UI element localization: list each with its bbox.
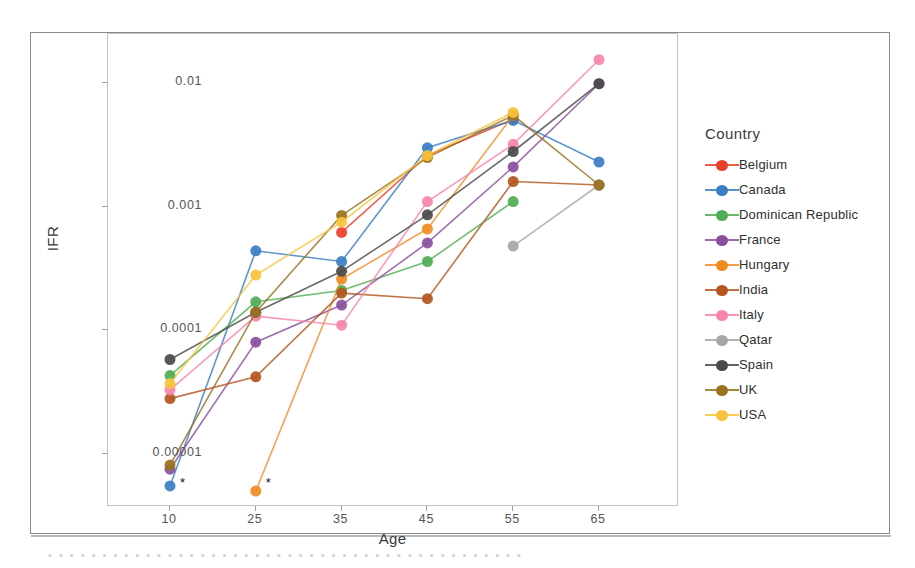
series-line-qatar xyxy=(513,185,599,246)
data-point-italy xyxy=(594,54,605,65)
data-point-canada xyxy=(336,256,347,267)
legend-label: India xyxy=(739,282,768,297)
data-point-usa xyxy=(422,150,433,161)
x-tick-mark xyxy=(341,506,342,511)
legend-swatch-icon xyxy=(705,208,739,222)
y-tick-mark xyxy=(102,82,107,83)
legend: Country BelgiumCanadaDominican RepublicF… xyxy=(705,125,910,427)
data-point-uk xyxy=(165,460,176,471)
data-point-spain xyxy=(508,146,519,157)
data-point-uk xyxy=(250,307,261,318)
data-point-canada xyxy=(165,480,176,491)
legend-swatch-icon xyxy=(705,308,739,322)
y-tick-label: 0.0001 xyxy=(82,321,202,335)
data-point-uk xyxy=(594,180,605,191)
x-tick-mark xyxy=(169,506,170,511)
data-point-canada xyxy=(594,157,605,168)
series-line-spain xyxy=(170,84,599,360)
legend-dot-icon xyxy=(716,410,728,421)
series-line-uk xyxy=(170,115,599,465)
legend-item-usa[interactable]: USA xyxy=(705,402,910,427)
y-tick-mark xyxy=(102,206,107,207)
data-point-france xyxy=(336,300,347,311)
legend-label: UK xyxy=(739,382,757,397)
data-point-usa xyxy=(508,107,519,118)
y-tick-mark xyxy=(102,453,107,454)
plot-canvas: ** xyxy=(108,34,677,505)
legend-dot-icon xyxy=(716,360,728,371)
legend-dot-icon xyxy=(716,285,728,296)
y-tick-label: 0.001 xyxy=(82,198,202,212)
legend-label: Belgium xyxy=(739,157,787,172)
legend-label: France xyxy=(739,232,781,247)
data-point-usa xyxy=(165,378,176,389)
data-point-qatar xyxy=(508,241,519,252)
legend-item-hungary[interactable]: Hungary xyxy=(705,252,910,277)
data-point-dominican-republic xyxy=(250,296,261,307)
x-tick-mark xyxy=(512,506,513,511)
legend-dot-icon xyxy=(716,310,728,321)
data-point-spain xyxy=(594,78,605,89)
data-point-india xyxy=(250,371,261,382)
asterisk-annotation: * xyxy=(266,475,271,490)
legend-item-france[interactable]: France xyxy=(705,227,910,252)
legend-label: Italy xyxy=(739,307,764,322)
x-axis-label: Age xyxy=(107,530,678,547)
legend-dot-icon xyxy=(716,210,728,221)
legend-swatch-icon xyxy=(705,383,739,397)
legend-item-uk[interactable]: UK xyxy=(705,377,910,402)
data-point-hungary xyxy=(250,486,261,497)
data-point-india xyxy=(422,293,433,304)
data-point-france xyxy=(422,237,433,248)
y-axis-label: IFR xyxy=(44,179,61,299)
data-point-usa xyxy=(250,270,261,281)
data-point-france xyxy=(508,161,519,172)
series-line-hungary xyxy=(256,115,513,491)
y-tick-label: 0.00001 xyxy=(82,445,202,459)
legend-item-belgium[interactable]: Belgium xyxy=(705,152,910,177)
x-tick-mark xyxy=(426,506,427,511)
legend-swatch-icon xyxy=(705,258,739,272)
x-tick-label: 35 xyxy=(321,512,361,526)
legend-item-canada[interactable]: Canada xyxy=(705,177,910,202)
data-point-belgium xyxy=(336,227,347,238)
legend-label: Canada xyxy=(739,182,786,197)
data-point-spain xyxy=(336,266,347,277)
page-caption-strip: • • • • • • • • • • • • • • • • • • • • … xyxy=(48,549,868,561)
legend-label: Dominican Republic xyxy=(739,207,858,222)
legend-swatch-icon xyxy=(705,283,739,297)
data-point-france xyxy=(250,337,261,348)
legend-items: BelgiumCanadaDominican RepublicFranceHun… xyxy=(705,152,910,427)
legend-swatch-icon xyxy=(705,408,739,422)
legend-label: Spain xyxy=(739,357,773,372)
data-point-usa xyxy=(336,217,347,228)
chart-figure: ** IFR 0.000010.00010.0010.01 1025354555… xyxy=(0,0,915,545)
plot-panel: ** xyxy=(107,33,678,506)
series-line-italy xyxy=(170,60,599,390)
legend-label: USA xyxy=(739,407,766,422)
legend-dot-icon xyxy=(716,335,728,346)
x-tick-label: 25 xyxy=(235,512,275,526)
legend-dot-icon xyxy=(716,185,728,196)
legend-item-spain[interactable]: Spain xyxy=(705,352,910,377)
data-point-canada xyxy=(250,245,261,256)
legend-dot-icon xyxy=(716,385,728,396)
data-point-italy xyxy=(422,196,433,207)
x-tick-label: 55 xyxy=(492,512,532,526)
y-tick-mark xyxy=(102,329,107,330)
data-point-spain xyxy=(165,354,176,365)
x-tick-mark xyxy=(598,506,599,511)
x-tick-label: 65 xyxy=(578,512,618,526)
legend-swatch-icon xyxy=(705,158,739,172)
legend-item-italy[interactable]: Italy xyxy=(705,302,910,327)
legend-label: Hungary xyxy=(739,257,790,272)
caption-text: • • • • • • • • • • • • • • • • • • • • … xyxy=(48,549,868,561)
x-tick-label: 45 xyxy=(406,512,446,526)
legend-item-india[interactable]: India xyxy=(705,277,910,302)
legend-item-dominican-republic[interactable]: Dominican Republic xyxy=(705,202,910,227)
x-tick-mark xyxy=(255,506,256,511)
data-point-dominican-republic xyxy=(422,256,433,267)
legend-item-qatar[interactable]: Qatar xyxy=(705,327,910,352)
data-point-hungary xyxy=(422,224,433,235)
legend-dot-icon xyxy=(716,235,728,246)
